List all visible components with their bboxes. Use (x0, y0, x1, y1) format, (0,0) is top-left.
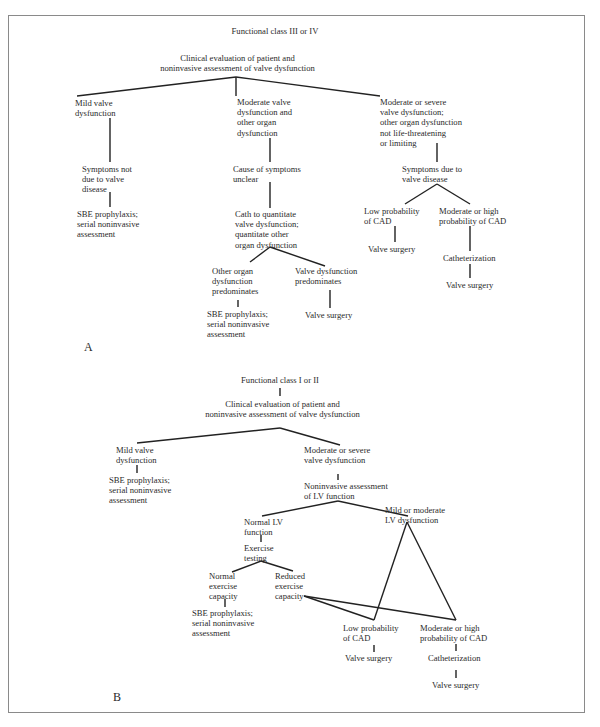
panel-a-cause-unclear-node: Cause of symptoms unclear (233, 164, 301, 184)
panel-a-low-cad-node: Low probability of CAD (364, 206, 420, 226)
panel-b-mild-outcome-node: SBE prophylaxis; serial noninvasive asse… (109, 475, 171, 506)
panel-a-other-organ-outcome-node: SBE prophylaxis; serial noninvasive asse… (207, 309, 269, 340)
panel-b-high-cad-node: Moderate or high probability of CAD (420, 623, 487, 643)
panel-b-exercise-testing-node: Exercise testing (244, 543, 274, 563)
panel-b-reduced-capacity-node: Reduced exercise capacity (275, 571, 305, 602)
panel-a-mild-outcome-node: SBE prophylaxis; serial noninvasive asse… (77, 209, 139, 240)
panel-a-mild-node: Mild valve dysfunction (75, 98, 116, 118)
panel-a-low-cad-surgery-node: Valve surgery (368, 244, 415, 254)
panel-b-mild-node: Mild valve dysfunction (116, 445, 157, 465)
panel-a-title: Functional class III or IV (190, 26, 360, 36)
panel-b-normal-lv-node: Normal LV function (244, 517, 283, 537)
panel-b-severe-node: Moderate or severe valve dysfunction (304, 445, 370, 465)
panel-a-catheterization-node: Catheterization (443, 253, 496, 263)
panel-a-high-cad-surgery-node: Valve surgery (446, 280, 493, 290)
panel-b-high-cad-surgery-node: Valve surgery (432, 680, 479, 690)
panel-a-valve-surgery-node: Valve surgery (305, 310, 352, 320)
panel-b-title: Functional class I or II (230, 375, 330, 385)
panel-a-moderate-node: Moderate valve dysfunction and other org… (237, 97, 292, 138)
panel-b-normal-capacity-outcome-node: SBE prophylaxis; serial noninvasive asse… (192, 608, 254, 639)
panel-b-mild-lv-dysfunction-node: Mild or moderate LV dysfunction (385, 505, 445, 525)
panel-a-mild-symptoms-node: Symptoms not due to valve disease (82, 164, 132, 195)
panel-b-catheterization-node: Catheterization (428, 653, 481, 663)
panel-b-label: B (113, 690, 121, 705)
panel-a-high-cad-node: Moderate or high probability of CAD (439, 206, 506, 226)
panel-a-root-node: Clinical evaluation of patient and nonin… (150, 53, 325, 73)
panel-a-symptoms-valve-node: Symptoms due to valve disease (402, 164, 462, 184)
panel-a-other-organ-node: Other organ dysfunction predominates (212, 266, 258, 297)
panel-a-severe-node: Moderate or severe valve dysfunction; ot… (380, 97, 462, 148)
panel-b-normal-capacity-node: Normal exercise capacity (209, 571, 238, 602)
panel-b-low-cad-node: Low probability of CAD (343, 623, 399, 643)
panel-a-valve-predominates-node: Valve dysfunction predominates (295, 266, 357, 286)
panel-b-lv-assessment-node: Noninvasive assessment of LV function (304, 481, 388, 501)
panel-a-cath-node: Cath to quantitate valve dysfunction; qu… (235, 209, 299, 250)
panel-b-root-node: Clinical evaluation of patient and nonin… (195, 399, 370, 419)
panel-a-label: A (84, 340, 93, 355)
panel-b-low-cad-surgery-node: Valve surgery (345, 653, 392, 663)
